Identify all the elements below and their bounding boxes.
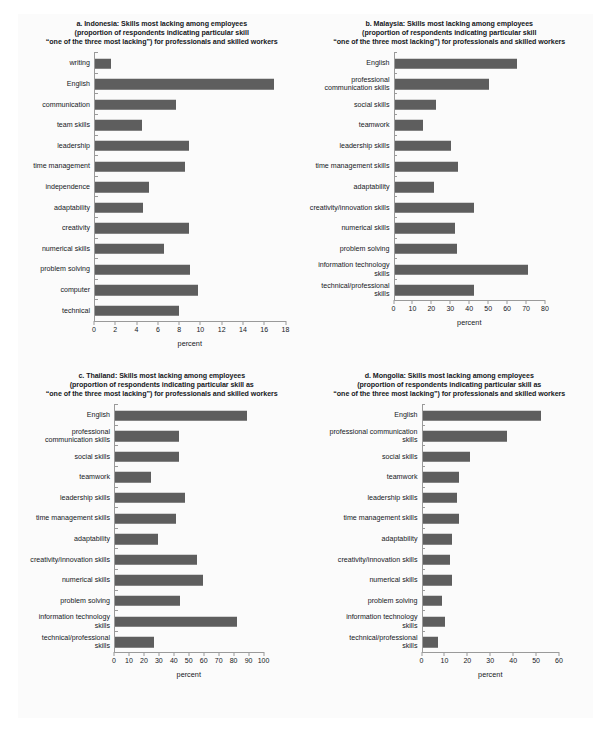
- bar-row: time management skills: [310, 508, 590, 529]
- bar[interactable]: [115, 431, 179, 442]
- bar[interactable]: [423, 431, 507, 442]
- bar-row: numerical skills: [22, 239, 302, 260]
- bar[interactable]: [395, 161, 459, 172]
- bar[interactable]: [423, 452, 471, 463]
- bar[interactable]: [95, 120, 142, 131]
- bar[interactable]: [115, 575, 203, 586]
- bar[interactable]: [395, 79, 489, 90]
- bar[interactable]: [423, 534, 453, 545]
- bar[interactable]: [423, 493, 457, 504]
- bar-row: creativity/innovation skills: [310, 197, 590, 218]
- bar[interactable]: [115, 410, 247, 421]
- bar[interactable]: [95, 285, 198, 296]
- axis-line-indonesia: 024681012141618: [94, 321, 286, 338]
- chart-panel-thailand: c. Thailand: Skills most lacking among e…: [18, 366, 306, 718]
- bar-track: [94, 259, 286, 280]
- bar[interactable]: [95, 305, 179, 316]
- chart-panel-malaysia: b. Malaysia: Skills most lacking among e…: [306, 14, 594, 366]
- bar[interactable]: [423, 472, 459, 483]
- bar[interactable]: [423, 410, 541, 421]
- bar[interactable]: [115, 616, 237, 627]
- x-axis-tick: [431, 300, 432, 304]
- plot-area-thailand: Englishprofessional communication skills…: [22, 405, 302, 679]
- bar[interactable]: [95, 141, 189, 152]
- bar-row: adaptability: [310, 529, 590, 550]
- bar[interactable]: [423, 575, 453, 586]
- bar[interactable]: [95, 223, 189, 234]
- bar[interactable]: [95, 58, 111, 69]
- bar[interactable]: [423, 513, 459, 524]
- category-label: team skills: [22, 121, 94, 129]
- bar[interactable]: [115, 493, 185, 504]
- chart-grid: a. Indonesia: Skills most lacking among …: [18, 14, 593, 718]
- x-axis-tick: [536, 652, 537, 656]
- bar[interactable]: [115, 472, 151, 483]
- bar-track: [114, 488, 264, 509]
- category-label: problem solving: [22, 265, 94, 273]
- bar[interactable]: [395, 141, 451, 152]
- bar-row: information technology skills: [310, 259, 590, 280]
- bar[interactable]: [395, 182, 435, 193]
- bar[interactable]: [95, 161, 185, 172]
- bar[interactable]: [395, 58, 517, 69]
- bar[interactable]: [395, 285, 474, 296]
- bar-row: problem solving: [22, 259, 302, 280]
- category-label: numerical skills: [310, 576, 422, 584]
- bar[interactable]: [95, 79, 274, 90]
- category-label: teamwork: [310, 473, 422, 481]
- bar[interactable]: [423, 596, 442, 607]
- bar[interactable]: [395, 223, 455, 234]
- x-axis-tick: [173, 652, 174, 656]
- bar-row: technical/professional skills: [310, 280, 590, 301]
- category-label: leadership skills: [310, 142, 394, 150]
- bar[interactable]: [95, 182, 149, 193]
- bar[interactable]: [395, 202, 474, 213]
- bar[interactable]: [395, 120, 423, 131]
- x-axis-mongolia: 0102030405060: [310, 652, 590, 669]
- bar-track: [394, 53, 546, 74]
- bar[interactable]: [95, 202, 143, 213]
- bar[interactable]: [95, 100, 176, 111]
- chart-panel-indonesia: a. Indonesia: Skills most lacking among …: [18, 14, 306, 366]
- chart-title-line-3: “one of the three most lacking”) for pro…: [30, 390, 293, 399]
- bar[interactable]: [395, 264, 529, 275]
- bar-row: technical/professional skills: [22, 632, 302, 653]
- category-label: leadership: [22, 142, 94, 150]
- x-axis-tick-label: 30: [486, 657, 494, 665]
- bar-row: time management skills: [22, 508, 302, 529]
- bar[interactable]: [115, 534, 158, 545]
- bar[interactable]: [395, 100, 436, 111]
- bar[interactable]: [423, 554, 450, 565]
- bar[interactable]: [95, 244, 164, 255]
- bar[interactable]: [115, 513, 176, 524]
- bar[interactable]: [423, 616, 446, 627]
- bar-track: [114, 591, 264, 612]
- bar-track: [394, 74, 546, 95]
- x-axis-tick-label: 90: [245, 657, 253, 665]
- category-label: creativity: [22, 224, 94, 232]
- x-axis-tick: [221, 321, 222, 325]
- bar[interactable]: [115, 637, 154, 648]
- bar[interactable]: [115, 596, 180, 607]
- bar-row: leadership skills: [310, 488, 590, 509]
- bar[interactable]: [115, 452, 179, 463]
- chart-title-line-1: a. Indonesia: Skills most lacking among …: [30, 20, 293, 29]
- category-label: computer: [22, 286, 94, 294]
- category-label: adaptability: [22, 204, 94, 212]
- plot-area-mongolia: Englishprofessional communication skills…: [310, 405, 590, 679]
- category-label: information technology skills: [310, 261, 394, 278]
- bar-track: [94, 197, 286, 218]
- axis-line-thailand: 0102030405060708090100: [114, 652, 264, 669]
- bar-row: social skills: [310, 94, 590, 115]
- x-axis-tick-label: 18: [282, 326, 290, 334]
- x-axis-tick: [218, 652, 219, 656]
- chart-title-line-1: c. Thailand: Skills most lacking among e…: [30, 372, 293, 381]
- bar[interactable]: [423, 637, 439, 648]
- bar-track: [422, 611, 560, 632]
- category-label: time management skills: [310, 162, 394, 170]
- category-label: teamwork: [310, 121, 394, 129]
- bar[interactable]: [95, 264, 190, 275]
- bar-track: [422, 488, 560, 509]
- bar[interactable]: [395, 244, 457, 255]
- bar[interactable]: [115, 554, 197, 565]
